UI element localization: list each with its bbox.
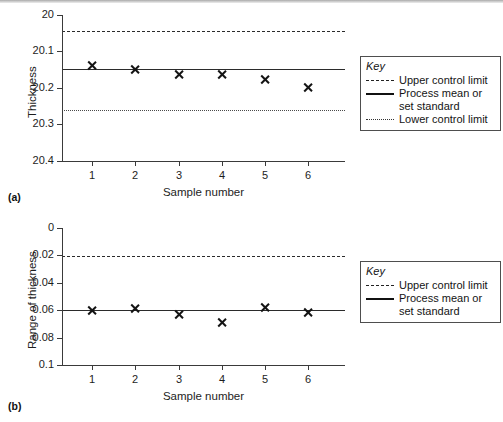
legend-line-swatch-solid — [366, 87, 394, 100]
x-tick — [265, 162, 266, 166]
x-tick-label: 1 — [77, 170, 107, 181]
legend-a: Key Upper control limitProcess mean orse… — [360, 56, 501, 131]
x-axis-label-a: Sample number — [62, 186, 345, 198]
y-tick — [57, 255, 62, 256]
y-tick-label: 20.4 — [0, 155, 54, 166]
legend-entry-label-continued: set standard — [366, 100, 495, 113]
x-tick — [308, 162, 309, 166]
legend-entry-label: Upper control limit — [399, 279, 488, 292]
data-point-marker — [216, 69, 227, 80]
data-point-marker — [87, 305, 98, 316]
data-point-marker — [260, 302, 271, 313]
legend-entry: Process mean or — [366, 292, 495, 305]
y-tick — [57, 283, 62, 284]
x-tick — [135, 162, 136, 166]
y-tick-label: 20.1 — [0, 45, 54, 56]
legend-line-swatch-dashed — [366, 279, 394, 292]
data-point-marker — [216, 317, 227, 328]
data-point-marker — [303, 307, 314, 318]
y-tick-label: 0.1 — [0, 359, 54, 370]
x-tick — [222, 162, 223, 166]
y-axis-label-b: Range of thickness — [26, 251, 38, 349]
legend-entry: Process mean or — [366, 87, 495, 100]
x-axis-b — [62, 365, 345, 366]
y-tick — [57, 161, 62, 162]
plot-area-b — [62, 228, 345, 365]
legend-entry-label: Lower control limit — [399, 113, 488, 126]
legend-line-swatch-dashed — [366, 74, 394, 87]
data-point-marker — [303, 82, 314, 93]
x-tick-label: 6 — [293, 170, 323, 181]
x-tick — [179, 366, 180, 370]
y-axis-label-a: Thickness — [26, 66, 38, 118]
x-axis-a — [62, 161, 345, 162]
x-tick — [92, 162, 93, 166]
reference-line-dotted — [62, 110, 345, 111]
panel-label-b: (b) — [8, 400, 21, 412]
legend-line-swatch-dotted — [366, 113, 394, 126]
data-point-marker — [87, 60, 98, 71]
legend-title-b: Key — [366, 265, 495, 278]
legend-entries-b: Upper control limitProcess mean orset st… — [366, 279, 495, 318]
x-tick-label: 4 — [207, 170, 237, 181]
x-tick — [265, 366, 266, 370]
reference-line-dashed — [62, 256, 345, 257]
y-tick — [57, 310, 62, 311]
data-point-marker — [173, 69, 184, 80]
y-tick — [57, 338, 62, 339]
x-tick-label: 5 — [250, 374, 280, 385]
y-tick — [57, 88, 62, 89]
legend-entry: Lower control limit — [366, 113, 495, 126]
legend-entries-a: Upper control limitProcess mean orset st… — [366, 74, 495, 126]
x-tick-label: 5 — [250, 170, 280, 181]
x-tick — [135, 366, 136, 370]
x-tick — [179, 162, 180, 166]
legend-entry-label: Process mean or — [399, 292, 482, 305]
legend-line-swatch-solid — [366, 292, 394, 305]
x-axis-label-b: Sample number — [62, 390, 345, 402]
x-tick-label: 3 — [164, 374, 194, 385]
y-tick-label: 20.3 — [0, 118, 54, 129]
y-tick-label: 0 — [0, 222, 54, 233]
panel-label-a: (a) — [8, 191, 21, 203]
y-axis-a — [62, 15, 63, 161]
x-tick-label: 1 — [77, 374, 107, 385]
y-tick — [57, 365, 62, 366]
x-tick — [308, 366, 309, 370]
data-point-marker — [130, 303, 141, 314]
x-tick-label: 4 — [207, 374, 237, 385]
legend-entry: Upper control limit — [366, 279, 495, 292]
y-axis-b — [62, 228, 63, 365]
legend-title-a: Key — [366, 60, 495, 73]
legend-entry-label-continued: set standard — [366, 305, 495, 318]
x-tick-label: 2 — [120, 170, 150, 181]
legend-b: Key Upper control limitProcess mean orse… — [360, 261, 501, 323]
chart-panel-a: 20.420.320.220.120 123456 Thickness Samp… — [0, 0, 503, 214]
x-tick-label: 2 — [120, 374, 150, 385]
x-tick — [222, 366, 223, 370]
y-tick-label: 20 — [0, 9, 54, 20]
chart-panel-b: 0.10.080.060.040.020 123456 Range of thi… — [0, 214, 503, 422]
data-point-marker — [130, 64, 141, 75]
legend-entry-label: Upper control limit — [399, 74, 488, 87]
reference-line-dashed — [62, 31, 345, 32]
x-tick-label: 6 — [293, 374, 323, 385]
y-tick — [57, 228, 62, 229]
x-tick — [92, 366, 93, 370]
y-tick — [57, 124, 62, 125]
x-tick-label: 3 — [164, 170, 194, 181]
y-tick — [57, 15, 62, 16]
legend-entry-label: Process mean or — [399, 87, 482, 100]
data-point-marker — [173, 309, 184, 320]
y-tick — [57, 51, 62, 52]
legend-entry: Upper control limit — [366, 74, 495, 87]
reference-line-solid — [62, 69, 345, 70]
data-point-marker — [260, 74, 271, 85]
